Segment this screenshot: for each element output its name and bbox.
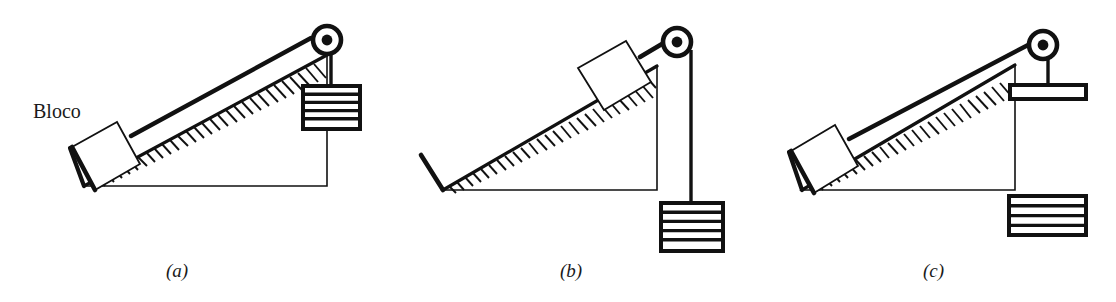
panel-c-hanging-pan xyxy=(1010,85,1086,99)
panel-b-incline-stop xyxy=(421,155,443,190)
panel-c-pulley xyxy=(1029,31,1057,59)
diagram-canvas: Bloco (a) xyxy=(0,0,1116,302)
panel-b: (b) xyxy=(421,28,723,282)
bloco-label: Bloco xyxy=(33,100,81,122)
panel-c-weight-block xyxy=(1009,196,1086,235)
panel-c: (c) xyxy=(789,31,1086,282)
panel-a-pulley xyxy=(313,26,341,54)
panel-b-hanging-weight xyxy=(661,203,723,251)
physics-figure: Bloco (a) xyxy=(0,0,1116,302)
panel-b-caption: (b) xyxy=(560,260,582,282)
panel-a: Bloco (a) xyxy=(33,26,360,282)
panel-a-hanging-weight xyxy=(303,86,360,129)
panel-b-pulley xyxy=(663,28,691,56)
panel-c-caption: (c) xyxy=(923,260,944,282)
panel-a-caption: (a) xyxy=(166,260,188,282)
